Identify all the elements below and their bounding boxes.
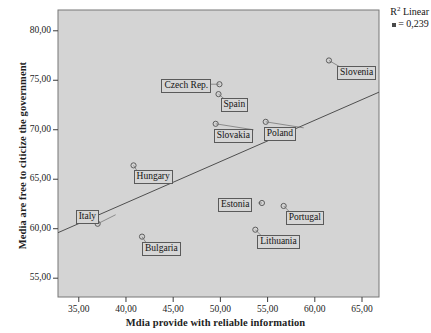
point-label: Czech Rep.: [161, 79, 211, 93]
x-tick-label: 40,00: [101, 304, 151, 314]
scatter-plot-figure: 80,0075,0070,0065,0060,0055,00 35,0040,0…: [0, 0, 431, 333]
x-tick-label: 45,00: [148, 304, 198, 314]
point-label: Slovenia: [337, 66, 376, 80]
x-axis-title: Mdia provide with reliable information: [0, 317, 431, 328]
x-tick-label: 60,00: [290, 304, 340, 314]
plot-canvas: [0, 0, 431, 333]
x-tick-label: 50,00: [195, 304, 245, 314]
x-tick-label: 35,00: [54, 304, 104, 314]
r-squared-annotation: R2 Linear = 0,239: [390, 3, 429, 30]
point-label: Hungary: [134, 170, 173, 184]
y-axis-title: Media are free to citicize the governmen…: [17, 26, 28, 286]
r2-linear-text: Linear: [400, 6, 429, 17]
x-axis-ticks: [79, 297, 362, 302]
r2-label: R2 Linear: [390, 6, 429, 17]
plot-area-background: [58, 10, 379, 297]
point-label: Poland: [264, 127, 296, 141]
point-label: Spain: [221, 98, 249, 112]
x-tick-label: 65,00: [337, 304, 387, 314]
point-label: Portugal: [286, 211, 324, 225]
point-label: Estonia: [218, 198, 253, 212]
square-marker-icon: [392, 23, 396, 27]
r2-value: = 0,239: [398, 18, 429, 29]
r2-value-line: = 0,239: [390, 18, 429, 30]
point-label: Lithuania: [257, 235, 299, 249]
point-label: Italy: [76, 210, 99, 224]
point-label: Bulgaria: [142, 242, 181, 256]
x-tick-label: 55,00: [243, 304, 293, 314]
r2-prefix: R: [390, 6, 397, 17]
point-label: Slovakia: [214, 129, 253, 143]
y-axis-ticks: [53, 31, 58, 278]
